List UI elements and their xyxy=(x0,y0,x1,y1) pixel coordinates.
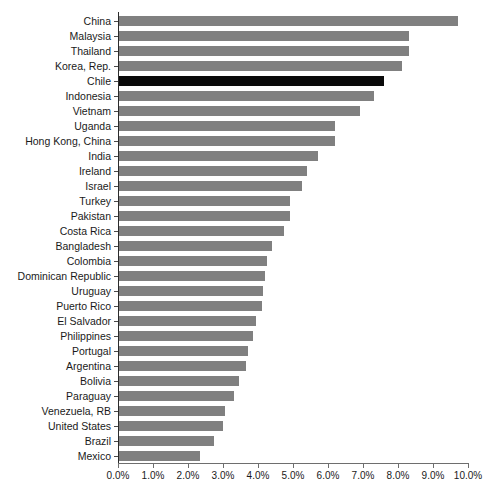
category-label: Vietnam xyxy=(73,104,118,120)
category-label: Ireland xyxy=(79,164,118,180)
x-tick-label: 1.0% xyxy=(142,470,165,481)
bar-row[interactable]: Uruguay xyxy=(118,284,468,300)
category-label: Philippines xyxy=(60,329,118,345)
category-label: Malaysia xyxy=(70,29,118,45)
bar[interactable] xyxy=(118,91,374,101)
bar-row[interactable]: El Salvador xyxy=(118,314,468,330)
x-tick-label: 3.0% xyxy=(212,470,235,481)
x-tick-mark xyxy=(468,463,469,468)
bar[interactable] xyxy=(118,166,307,176)
x-tick-mark xyxy=(258,463,259,468)
category-label: Uganda xyxy=(74,119,118,135)
category-label: Argentina xyxy=(66,359,118,375)
bar-row[interactable]: Bolivia xyxy=(118,374,468,390)
bar-row[interactable]: Colombia xyxy=(118,254,468,270)
category-label: Bolivia xyxy=(80,374,118,390)
bar[interactable] xyxy=(118,316,256,326)
bar[interactable] xyxy=(118,346,248,356)
category-label: Costa Rica xyxy=(60,224,118,240)
bar-row[interactable]: Chile xyxy=(118,74,468,90)
bar[interactable] xyxy=(118,451,200,461)
bar-row[interactable]: Uganda xyxy=(118,119,468,135)
bar[interactable] xyxy=(118,406,225,416)
bar-row[interactable]: Hong Kong, China xyxy=(118,134,468,150)
category-label: Portugal xyxy=(72,344,118,360)
bar-row[interactable]: Malaysia xyxy=(118,29,468,45)
bar-row[interactable]: Costa Rica xyxy=(118,224,468,240)
bar[interactable] xyxy=(118,241,272,251)
bar[interactable] xyxy=(118,61,402,71)
bar-row[interactable]: Ireland xyxy=(118,164,468,180)
bar[interactable] xyxy=(118,181,302,191)
x-tick-label: 9.0% xyxy=(422,470,445,481)
bar-row[interactable]: Pakistan xyxy=(118,209,468,225)
bar-row[interactable]: Korea, Rep. xyxy=(118,59,468,75)
bar[interactable] xyxy=(118,361,246,371)
y-axis-line xyxy=(118,12,119,464)
x-tick-mark xyxy=(328,463,329,468)
bar-row[interactable]: Bangladesh xyxy=(118,239,468,255)
category-label: Venezuela, RB xyxy=(42,404,118,420)
x-tick-mark xyxy=(223,463,224,468)
bar-row[interactable]: Turkey xyxy=(118,194,468,210)
category-label: Colombia xyxy=(67,254,118,270)
bar-row[interactable]: Venezuela, RB xyxy=(118,404,468,420)
bar-row[interactable]: Dominican Republic xyxy=(118,269,468,285)
bar-row[interactable]: Indonesia xyxy=(118,89,468,105)
bar-row[interactable]: United States xyxy=(118,419,468,435)
bar[interactable] xyxy=(118,286,263,296)
category-label: Bangladesh xyxy=(56,239,118,255)
bar[interactable] xyxy=(118,271,265,281)
category-label: Mexico xyxy=(78,449,118,465)
bar[interactable] xyxy=(118,256,267,266)
x-tick-label: 8.0% xyxy=(387,470,410,481)
x-tick-mark xyxy=(188,463,189,468)
bar[interactable] xyxy=(118,331,253,341)
x-tick-label: 7.0% xyxy=(352,470,375,481)
bar[interactable] xyxy=(118,76,384,86)
bar-row[interactable]: Philippines xyxy=(118,329,468,345)
category-label: Indonesia xyxy=(65,89,118,105)
bar[interactable] xyxy=(118,211,290,221)
category-label: Turkey xyxy=(79,194,118,210)
category-label: Dominican Republic xyxy=(18,269,118,285)
bar[interactable] xyxy=(118,151,318,161)
bar[interactable] xyxy=(118,301,262,311)
bar-row[interactable]: Paraguay xyxy=(118,389,468,405)
x-tick-label: 6.0% xyxy=(317,470,340,481)
plot-area: ChinaMalaysiaThailandKorea, Rep.ChileInd… xyxy=(118,12,468,462)
bar[interactable] xyxy=(118,121,335,131)
category-label: Thailand xyxy=(71,44,118,60)
category-label: China xyxy=(84,14,118,30)
bar-row[interactable]: Thailand xyxy=(118,44,468,60)
bar-row[interactable]: Portugal xyxy=(118,344,468,360)
bar[interactable] xyxy=(118,136,335,146)
x-tick-mark xyxy=(433,463,434,468)
bar[interactable] xyxy=(118,391,234,401)
bar[interactable] xyxy=(118,16,458,26)
bar[interactable] xyxy=(118,226,284,236)
bar-chart: ChinaMalaysiaThailandKorea, Rep.ChileInd… xyxy=(0,0,487,496)
bar-row[interactable]: Argentina xyxy=(118,359,468,375)
x-tick-mark xyxy=(363,463,364,468)
bar[interactable] xyxy=(118,106,360,116)
bar[interactable] xyxy=(118,376,239,386)
category-label: Puerto Rico xyxy=(56,299,118,315)
bar-row[interactable]: Puerto Rico xyxy=(118,299,468,315)
category-label: United States xyxy=(48,419,118,435)
bar-row[interactable]: Vietnam xyxy=(118,104,468,120)
bar-row[interactable]: Brazil xyxy=(118,434,468,450)
bar-row[interactable]: India xyxy=(118,149,468,165)
bar[interactable] xyxy=(118,31,409,41)
bar-row[interactable]: Israel xyxy=(118,179,468,195)
category-label: Brazil xyxy=(85,434,118,450)
bar-row[interactable]: China xyxy=(118,14,468,30)
bar[interactable] xyxy=(118,421,223,431)
bar-row[interactable]: Mexico xyxy=(118,449,468,465)
x-tick-label: 5.0% xyxy=(282,470,305,481)
x-tick-label: 10.0% xyxy=(454,470,482,481)
bar[interactable] xyxy=(118,46,409,56)
bar[interactable] xyxy=(118,436,214,446)
x-tick-mark xyxy=(293,463,294,468)
bar[interactable] xyxy=(118,196,290,206)
